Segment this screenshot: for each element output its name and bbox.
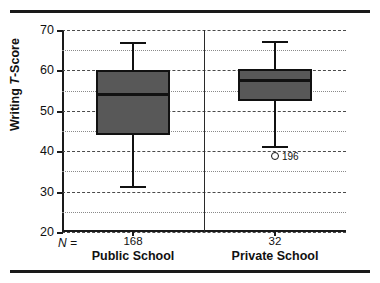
lower-whisker-line	[274, 101, 276, 147]
y-tick-label: 20	[40, 226, 54, 239]
outlier-point[interactable]	[271, 152, 279, 160]
upper-whisker-line	[274, 41, 276, 69]
y-tick-label: 30	[40, 185, 54, 198]
x-group-label-block: 168Public School	[92, 234, 175, 264]
y-tick-mark	[57, 232, 63, 234]
upper-whisker-cap	[120, 42, 146, 44]
outlier-label: 196	[282, 151, 299, 162]
y-tick-label: 70	[40, 24, 54, 37]
iqr-box[interactable]	[238, 69, 312, 101]
y-tick-mark	[57, 192, 63, 194]
iqr-box[interactable]	[96, 70, 170, 135]
lower-whisker-line	[132, 135, 134, 186]
group-name-label: Public School	[92, 249, 175, 264]
upper-whisker-cap	[262, 41, 288, 43]
lower-whisker-cap	[120, 186, 146, 188]
y-tick-mark	[57, 151, 63, 153]
y-tick-label: 60	[40, 64, 54, 77]
y-tick-mark	[57, 70, 63, 72]
y-axis-title-suffix: -Score	[8, 38, 22, 77]
upper-whisker-line	[132, 42, 134, 70]
y-axis-title-prefix: Writing	[8, 85, 22, 131]
y-axis-title: Writing T-Score	[8, 38, 22, 131]
group-n-value: 168	[92, 234, 175, 249]
box-plot-public-school[interactable]	[96, 30, 170, 232]
median-line	[96, 93, 170, 96]
box-plot-private-school[interactable]: 196	[238, 30, 312, 232]
figure-top-rule	[10, 10, 370, 13]
y-tick-mark	[57, 111, 63, 113]
median-line	[238, 79, 312, 82]
x-group-label-block: 32Private School	[232, 234, 319, 264]
plot-area: 706050403020 196	[62, 30, 346, 232]
group-n-value: 32	[232, 234, 319, 249]
gridline-major	[62, 232, 346, 233]
boxplot-figure: Writing T-Score 706050403020 196 N = 168…	[0, 0, 380, 283]
figure-bottom-rule	[10, 270, 370, 273]
group-divider	[204, 30, 205, 232]
y-tick-label: 50	[40, 105, 54, 118]
y-tick-label: 40	[40, 145, 54, 158]
y-axis-title-italic: T	[8, 77, 22, 85]
y-tick-mark	[57, 30, 63, 32]
n-prefix-label: N =	[58, 236, 77, 250]
lower-whisker-cap	[262, 146, 288, 148]
group-name-label: Private School	[232, 249, 319, 264]
